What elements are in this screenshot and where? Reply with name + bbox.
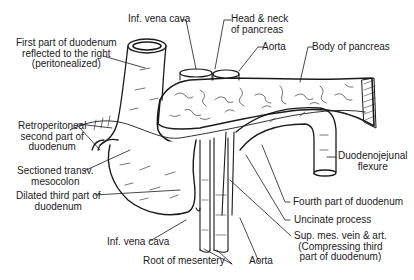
central-vessels-shape — [196, 132, 234, 252]
label-sup-mes-vein-art: Sup. mes. vein & art. (Compressing third… — [294, 231, 387, 263]
label-aorta-bottom: Aorta — [249, 256, 273, 267]
label-uncinate-process: Uncinate process — [294, 215, 371, 226]
label-aorta-top: Aorta — [262, 42, 286, 53]
label-dilated-third-part: Dilated third part of duodenum — [16, 191, 101, 212]
label-root-mesentery: Root of mesentery — [143, 256, 225, 267]
aorta-top-shape — [213, 70, 239, 78]
dilated-third-part-shape — [108, 140, 196, 215]
label-body-pancreas: Body of pancreas — [312, 42, 390, 53]
label-sectioned-mesocolon: Sectioned transv. mesocolon — [17, 166, 94, 187]
ivc-top-shape — [180, 69, 212, 77]
leader-lines — [78, 20, 336, 264]
label-inf-vena-cava-bottom: Inf. vena cava — [107, 237, 169, 248]
label-fourth-part-duodenum: Fourth part of duodenum — [293, 197, 403, 208]
label-head-neck-pancreas: Head & neck of pancreas — [231, 14, 288, 35]
label-duodenojejunal-flexure: Duodenojejunal flexure — [338, 151, 408, 172]
anatomy-diagram: Inf. vena cava Head & neck of pancreas A… — [0, 0, 414, 280]
pancreas-body-shape — [158, 78, 376, 129]
label-retroperitoneal-second-part: Retroperitoneal second part of duodenum — [18, 121, 86, 153]
label-first-part-duodenum: First part of duodenum reflected to the … — [16, 38, 117, 70]
label-inf-vena-cava-top: Inf. vena cava — [128, 14, 190, 25]
